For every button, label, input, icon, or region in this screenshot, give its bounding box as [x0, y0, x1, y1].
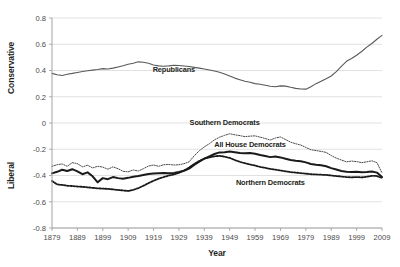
y-tick-label: 0.6: [35, 40, 46, 49]
chart-container: 0.80.60.40.20-0.2-0.4-0.6-0.818791889189…: [0, 0, 400, 267]
series-label-all-house-democrats: All House Democrats: [214, 140, 286, 149]
x-tick-label: 1939: [196, 233, 213, 242]
y-tick-label: -0.6: [33, 198, 46, 207]
y-tick-label: -0.2: [33, 145, 46, 154]
x-axis-title: Year: [208, 248, 226, 258]
x-tick-label: 1899: [94, 233, 111, 242]
x-tick-label: 1989: [323, 233, 340, 242]
series-label-northern-democrats: Northern Democrats: [236, 178, 305, 187]
x-tick-label: 1999: [348, 233, 365, 242]
x-tick-label: 2009: [374, 233, 391, 242]
series-label-southern-democrats: Southern Democrats: [190, 118, 260, 127]
series-label-republicans: Republicans: [153, 65, 195, 74]
x-tick-label: 1969: [272, 233, 289, 242]
y-tick-label: 0: [42, 119, 46, 128]
x-tick-label: 1979: [297, 233, 314, 242]
x-tick-label: 1949: [221, 233, 238, 242]
y-tick-label: -0.8: [33, 224, 46, 233]
y-axis-title-conservative: Conservative: [6, 41, 16, 94]
x-tick-label: 1929: [170, 233, 187, 242]
y-tick-label: 0.8: [35, 14, 46, 23]
x-tick-label: 1879: [44, 233, 61, 242]
line-chart: 0.80.60.40.20-0.2-0.4-0.6-0.818791889189…: [0, 0, 400, 267]
y-tick-label: 0.4: [35, 66, 46, 75]
x-tick-label: 1919: [145, 233, 162, 242]
y-axis-title-liberal: Liberal: [6, 162, 16, 189]
y-tick-label: -0.4: [33, 171, 46, 180]
x-tick-label: 1909: [120, 233, 137, 242]
y-axis-ticks: 0.80.60.40.20-0.2-0.4-0.6-0.8: [33, 14, 52, 233]
x-axis-ticks: 1879188918991909191919291939194919591969…: [44, 228, 391, 242]
x-tick-label: 1889: [69, 233, 86, 242]
x-tick-label: 1959: [247, 233, 264, 242]
y-tick-label: 0.2: [35, 93, 46, 102]
